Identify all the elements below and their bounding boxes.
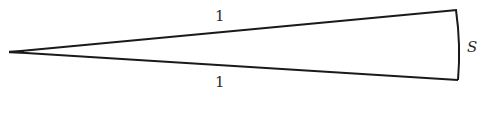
upper-radius-line	[10, 10, 457, 52]
lower-radius-line	[10, 52, 458, 80]
arc-s	[456, 10, 459, 80]
upper-side-label: 1	[215, 7, 225, 25]
sector-shape	[9, 10, 459, 80]
sector-diagram: 1 1 S	[0, 0, 481, 118]
lower-side-label: 1	[215, 73, 225, 91]
arc-label: S	[467, 38, 477, 56]
